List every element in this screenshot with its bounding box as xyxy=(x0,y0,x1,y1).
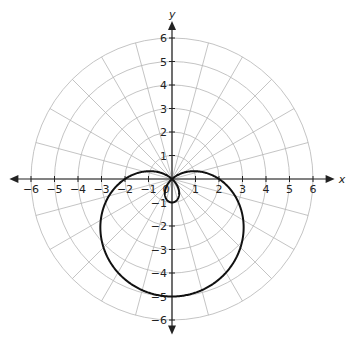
y-tick-label: −1 xyxy=(151,197,167,210)
x-tick-label: 4 xyxy=(263,183,270,196)
y-tick-label: 6 xyxy=(160,32,167,45)
y-tick-label: −3 xyxy=(151,244,167,257)
y-tick-label: −4 xyxy=(151,267,167,280)
grid-spoke xyxy=(172,179,243,301)
y-tick-label: 1 xyxy=(160,150,167,163)
x-tick-label: −4 xyxy=(70,183,86,196)
y-tick-label: 3 xyxy=(160,103,167,116)
x-tick-label: −5 xyxy=(46,183,62,196)
y-tick-label: 5 xyxy=(160,56,167,69)
y-tick-label: −6 xyxy=(151,314,167,327)
grid-spoke xyxy=(172,79,272,179)
grid-spoke xyxy=(172,57,243,179)
y-axis-label: y xyxy=(168,8,176,21)
x-tick-label: −3 xyxy=(93,183,109,196)
y-tick-label: 2 xyxy=(160,126,167,139)
x-axis-arrow-left-icon xyxy=(9,175,18,183)
y-tick-label: 4 xyxy=(160,79,167,92)
y-axis-arrow-down-icon xyxy=(168,326,176,335)
x-axis-arrow-right-icon xyxy=(326,175,335,183)
x-tick-label: 3 xyxy=(239,183,246,196)
x-tick-label: 6 xyxy=(310,183,317,196)
grid-spoke xyxy=(172,109,294,180)
x-tick-label: 2 xyxy=(216,183,223,196)
grid-spoke xyxy=(50,109,172,180)
x-axis-label: x xyxy=(338,173,346,186)
x-tick-label: 1 xyxy=(192,183,199,196)
y-tick-label: −2 xyxy=(151,220,167,233)
polar-chart: −6−5−4−3−2−10123456−6−5−4−3−2−1123456 x … xyxy=(0,0,346,347)
x-tick-label: 5 xyxy=(286,183,293,196)
grid-spoke xyxy=(172,179,294,250)
x-tick-label: −1 xyxy=(140,183,156,196)
y-axis-arrow-up-icon xyxy=(168,21,176,30)
x-tick-label: −6 xyxy=(23,183,39,196)
x-tick-label: −2 xyxy=(117,183,133,196)
grid-spoke xyxy=(72,79,172,179)
